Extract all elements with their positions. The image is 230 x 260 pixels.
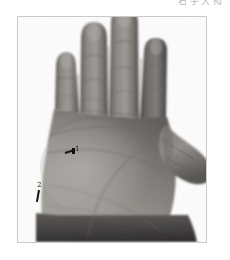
caption-strip: 右手大拇 [0, 0, 230, 12]
annotation-marker-2-label: 2 [37, 182, 41, 189]
hand-photograph: 1 2 [18, 17, 206, 242]
hand-photograph-graphic [18, 17, 206, 242]
figure-caption-text: 右手大拇 [178, 0, 224, 7]
annotation-marker-1-label: 1 [75, 146, 79, 153]
figure-frame: 1 2 [17, 16, 207, 243]
